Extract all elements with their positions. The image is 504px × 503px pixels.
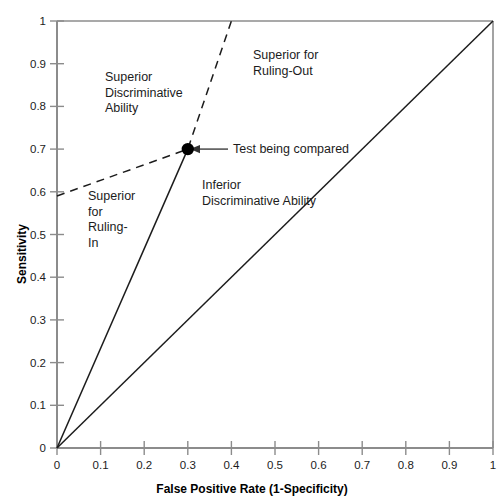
ytick-label-1: 1 [16,15,46,27]
test-point-marker [182,143,194,155]
ytick-label-0.9: 0.9 [16,58,46,70]
y-axis-title: Sensitivity [15,204,29,304]
ytick-label-0.7: 0.7 [16,143,46,155]
ytick-label-0.2: 0.2 [16,357,46,369]
annotation-inferior-discriminative-ability: Inferior Discriminative Ability [202,178,316,209]
xtick-label-0.1: 0.1 [93,459,109,471]
ytick-label-0.3: 0.3 [16,314,46,326]
annotation-superior-discriminative-ability: Superior Discriminative Ability [105,70,183,117]
xtick-label-0.6: 0.6 [311,459,327,471]
xtick-label-0.7: 0.7 [354,459,370,471]
ytick-label-0.8: 0.8 [16,100,46,112]
chart-canvas [0,0,504,503]
xtick-label-0.5: 0.5 [267,459,283,471]
xtick-label-0.9: 0.9 [441,459,457,471]
xtick-label-0: 0 [54,459,60,471]
xtick-label-0.4: 0.4 [223,459,239,471]
roc-curve-figure: 1 0.9 0.8 0.7 0.6 0.5 0.4 0.3 0.2 0.1 0 … [0,0,504,503]
xtick-label-0.3: 0.3 [180,459,196,471]
annotation-test-being-compared: Test being compared [233,142,349,158]
xtick-label-1: 1 [490,459,496,471]
callout-arrow-icon [190,145,228,153]
xtick-label-0.8: 0.8 [398,459,414,471]
ytick-label-0: 0 [16,442,46,454]
x-axis-title: False Positive Rate (1-Specificity) [0,482,504,496]
annotation-superior-for-ruling-in: Superior for Ruling- In [88,189,135,251]
xtick-label-0.2: 0.2 [136,459,152,471]
annotation-superior-for-ruling-out: Superior for Ruling-Out [253,48,318,79]
ytick-label-0.1: 0.1 [16,399,46,411]
ytick-label-0.6: 0.6 [16,186,46,198]
